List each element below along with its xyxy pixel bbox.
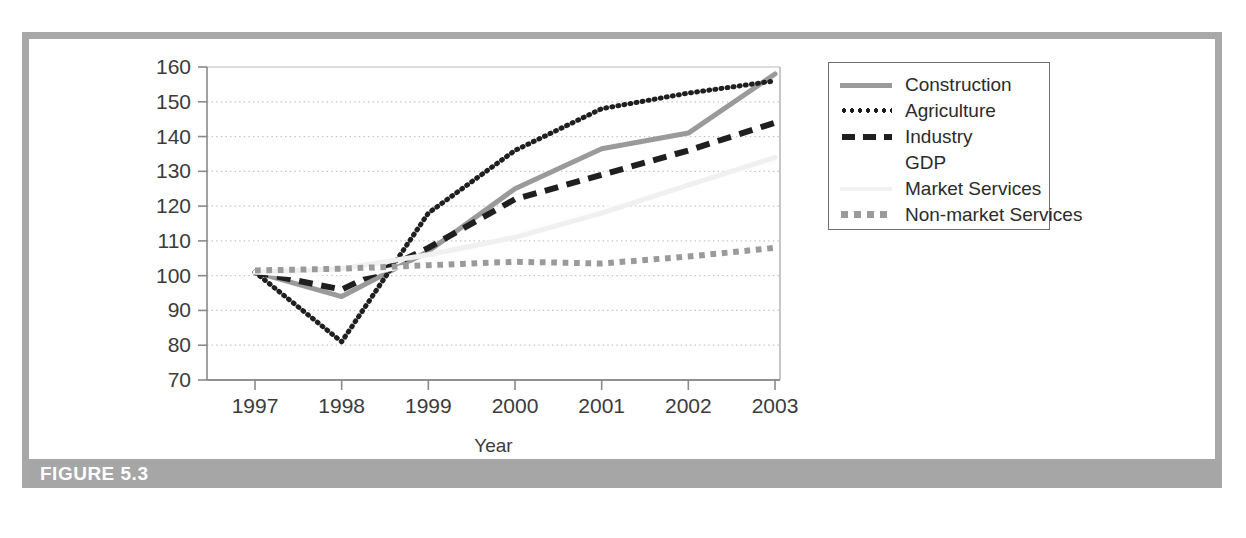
legend-label: Market Services	[905, 178, 1041, 200]
legend-label: Construction	[905, 74, 1012, 96]
x-axis-tick-labels-group: 1997199819992000200120022003	[232, 394, 799, 417]
legend-item-market-services[interactable]: Market Services	[829, 176, 1049, 202]
series-line-agriculture	[255, 81, 775, 342]
x-axis-title: Year	[474, 435, 513, 456]
series-line-market-services	[255, 157, 775, 272]
legend-label: Agriculture	[905, 100, 996, 122]
figure-root: 708090100110120130140150160 199719981999…	[0, 0, 1246, 538]
y-axis-tick-label: 140	[156, 125, 191, 148]
y-axis-ticks-group	[198, 67, 207, 380]
light-gray-line-swatch-icon	[838, 182, 896, 196]
legend-label: GDP	[905, 152, 946, 174]
blank-line-swatch-icon	[838, 156, 896, 170]
square-dotted-gray-line-swatch-icon	[838, 208, 896, 222]
x-axis-tick-label: 1999	[405, 394, 452, 417]
y-axis-tick-label: 90	[168, 298, 191, 321]
gridlines-group	[207, 67, 780, 380]
legend-item-construction[interactable]: Construction	[829, 72, 1049, 98]
x-axis-tick-label: 2002	[665, 394, 712, 417]
series-line-construction	[255, 74, 775, 297]
y-axis-tick-label: 120	[156, 194, 191, 217]
data-series-group	[255, 74, 775, 342]
legend-label: Industry	[905, 126, 973, 148]
line-chart-svg: 708090100110120130140150160 199719981999…	[0, 0, 1246, 538]
dotted-black-line-swatch-icon	[838, 104, 896, 118]
x-axis-tick-label: 1997	[232, 394, 279, 417]
figure-caption-text: FIGURE 5.3	[29, 463, 148, 485]
y-axis-tick-label: 70	[168, 368, 191, 391]
x-axis-tick-label: 1998	[318, 394, 365, 417]
series-line-gdp	[255, 161, 775, 279]
y-axis-tick-label: 150	[156, 90, 191, 113]
x-axis-tick-label: 2001	[578, 394, 625, 417]
y-axis-tick-label: 110	[158, 229, 191, 252]
chart-plot-area: 708090100110120130140150160 199719981999…	[0, 0, 1246, 538]
chart-legend: Construction Agriculture Industry GDP Ma…	[828, 62, 1050, 230]
y-axis-tick-labels-group: 708090100110120130140150160	[156, 55, 191, 391]
solid-gray-line-swatch-icon	[838, 78, 896, 92]
x-axis-ticks-group	[255, 380, 775, 390]
dashed-black-line-swatch-icon	[838, 130, 896, 144]
legend-item-industry[interactable]: Industry	[829, 124, 1049, 150]
x-axis-tick-label: 2003	[752, 394, 799, 417]
axes-group	[207, 67, 780, 380]
legend-item-non-market-services[interactable]: Non-market Services	[829, 202, 1049, 228]
legend-item-agriculture[interactable]: Agriculture	[829, 98, 1049, 124]
x-axis-tick-label: 2000	[492, 394, 539, 417]
y-axis-tick-label: 130	[156, 159, 191, 182]
series-line-industry	[255, 123, 775, 290]
y-axis-tick-label: 100	[156, 264, 191, 287]
y-axis-tick-label: 160	[156, 55, 191, 78]
y-axis-tick-label: 80	[168, 333, 191, 356]
figure-caption-bar: FIGURE 5.3	[29, 459, 1222, 488]
legend-label: Non-market Services	[905, 204, 1082, 226]
legend-item-gdp[interactable]: GDP	[829, 150, 1049, 176]
